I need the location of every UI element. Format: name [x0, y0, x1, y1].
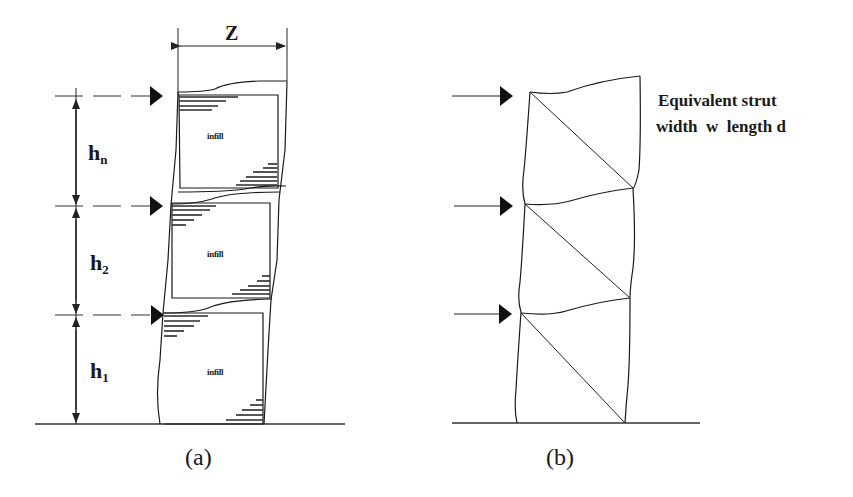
- load-arrow-icon: [500, 86, 513, 106]
- storey-label-hn: hn: [88, 140, 107, 168]
- storey-label-main: h: [90, 358, 102, 383]
- lateral-loads-b: [452, 86, 513, 324]
- panel-a: [35, 28, 345, 424]
- load-arrow-icon: [500, 196, 513, 216]
- infill-label-middle: infill: [207, 249, 223, 259]
- strut-note-line2: width w length d: [656, 114, 786, 140]
- storey-label-h2: h2: [90, 250, 109, 278]
- infill-label-bottom: infill: [207, 367, 223, 377]
- equivalent-strut: [525, 204, 630, 298]
- load-arrow-icon: [150, 86, 163, 106]
- storey-label-main: h: [88, 140, 100, 165]
- strut-note-line1: Equivalent strut: [658, 88, 777, 114]
- load-arrow-icon: [150, 196, 163, 216]
- equivalent-strut: [530, 92, 633, 188]
- storey-label-sub: 1: [102, 370, 109, 385]
- caption-b: (b): [546, 444, 574, 471]
- lateral-loads-a: [55, 86, 164, 325]
- infill-frame-diagram: [0, 0, 853, 497]
- equivalent-strut: [521, 313, 625, 423]
- storey-label-h1: h1: [90, 358, 109, 386]
- infill-label-top: infill: [207, 131, 223, 141]
- load-arrow-icon: [499, 304, 512, 324]
- storey-label-sub: n: [100, 152, 107, 167]
- frame-b: [515, 76, 640, 423]
- caption-a: (a): [185, 444, 212, 471]
- storey-label-main: h: [90, 250, 102, 275]
- storey-label-sub: 2: [102, 262, 109, 277]
- width-label-z: Z: [225, 22, 238, 45]
